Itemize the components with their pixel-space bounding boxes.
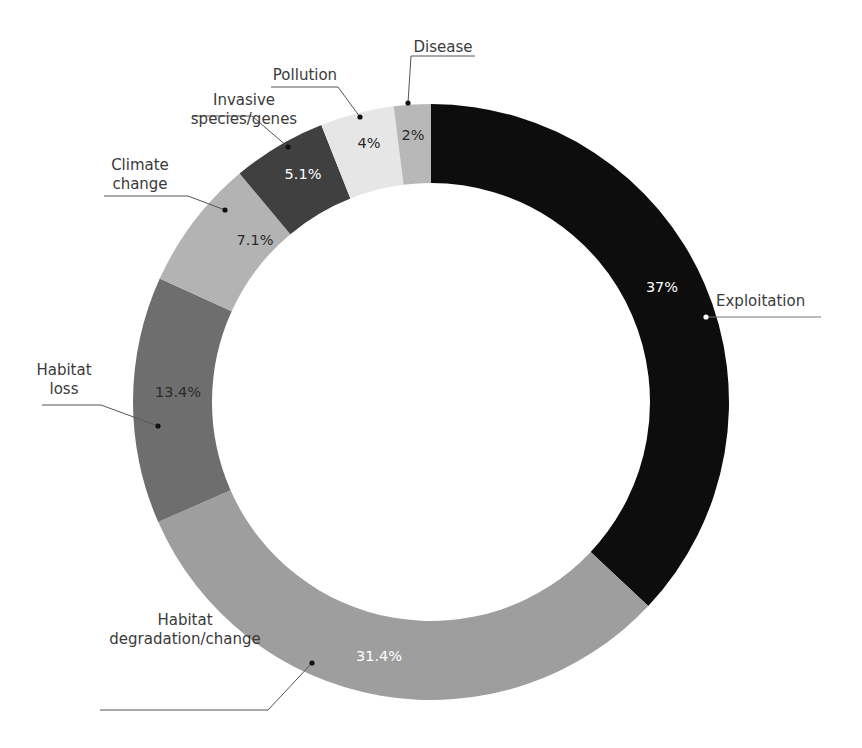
segment-habitat-loss — [133, 279, 232, 523]
donut-segments — [133, 104, 729, 700]
category-label-pollution: Pollution — [273, 66, 337, 84]
leader-dot-invasive-species-genes — [285, 144, 290, 149]
leader-dot-pollution — [357, 114, 362, 119]
pct-label-habitat-loss: 13.4% — [155, 384, 201, 400]
pct-label-pollution: 4% — [357, 135, 380, 151]
pct-label-climate-change: 7.1% — [237, 232, 274, 248]
leader-dot-habitat-degradation-change — [309, 660, 314, 665]
category-label-disease: Disease — [414, 38, 473, 56]
leader-dot-climate-change — [222, 207, 227, 212]
leader-dot-exploitation — [703, 314, 708, 319]
leader-line-disease — [408, 56, 475, 103]
pct-label-habitat-degradation-change: 31.4% — [356, 648, 402, 664]
segment-habitat-degradation-change — [158, 490, 648, 700]
pct-label-exploitation: 37% — [646, 279, 678, 295]
leader-line-habitat-degradation-change — [100, 663, 312, 710]
donut-chart: 37%31.4%13.4%7.1%5.1%4%2% ExploitationHa… — [0, 0, 862, 748]
category-label-habitat-loss: Habitatloss — [36, 361, 91, 398]
leader-dot-disease — [405, 100, 410, 105]
category-label-exploitation: Exploitation — [716, 292, 805, 310]
category-label-invasive-species-genes: Invasivespecies/genes — [191, 91, 298, 128]
pct-label-disease: 2% — [401, 127, 424, 143]
segment-exploitation — [431, 104, 729, 606]
category-label-climate-change: Climatechange — [111, 156, 169, 193]
leader-dot-habitat-loss — [155, 423, 160, 428]
pct-label-invasive-species-genes: 5.1% — [285, 166, 322, 182]
